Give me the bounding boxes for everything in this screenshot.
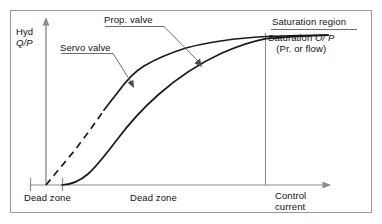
servo-valve-curve-dashed [46,110,104,185]
y-axis-label: Hyd Q/P [16,26,33,48]
y-axis-arrowhead [43,17,50,26]
prop-valve-label: Prop. valve [104,14,153,25]
saturation-output-op: O/ P [315,32,334,43]
dead-zone-label-left: Dead zone [24,192,71,203]
y-axis-label-p: P [26,37,32,48]
servo-valve-callout-arrowhead [128,80,134,88]
saturation-output-line1: Saturation O/ P [268,32,334,43]
valve-characteristic-figure: Hyd Q/P Servo valve Prop. valve Saturati… [0,0,382,224]
saturation-output-label: Saturation O/ P (Pr. or flow) [268,32,334,54]
x-axis-label-line1: Control [275,190,306,201]
prop-valve-callout-leader [164,27,198,62]
y-axis-label-line1: Hyd [16,26,33,37]
servo-valve-label: Servo valve [60,42,111,53]
saturation-output-prefix: Saturation [268,32,315,43]
x-axis-arrowhead [323,182,332,189]
saturation-output-line2: (Pr. or flow) [268,43,334,54]
y-axis-label-q: Q [16,37,24,48]
y-axis-label-line2: Q/P [16,37,33,48]
servo-valve-callout-leader [113,54,131,83]
x-axis-label-line2: current [275,201,306,212]
dead-zone-label-right: Dead zone [130,192,177,203]
x-axis-label: Control current [275,190,306,212]
saturation-region-label: Saturation region [272,16,346,27]
